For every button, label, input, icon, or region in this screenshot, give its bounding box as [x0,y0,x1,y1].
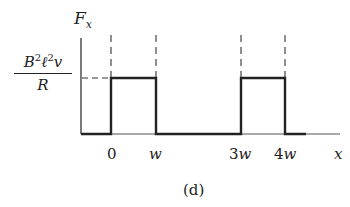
tick-label-3w: 3w [229,145,251,163]
figure-caption: (d) [183,181,204,199]
level-numerator: B2ℓ2v [14,52,72,74]
level-denominator: R [14,74,72,94]
pulse-plot [0,0,350,207]
tick-label-w: w [149,145,162,163]
tick-label-4w: 4w [274,145,296,163]
y-axis-label: Fx [74,8,92,31]
force-trace [81,78,306,134]
x-axis-label: x [334,145,342,163]
tick-label-0: 0 [107,145,117,163]
level-label: B2ℓ2v R [14,52,72,94]
